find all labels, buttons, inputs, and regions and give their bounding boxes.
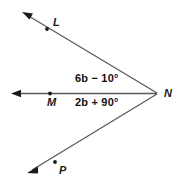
figure-canvas <box>0 0 177 182</box>
ray-LN-arrowhead <box>22 12 33 20</box>
angle-label-upper: 6b − 10° <box>75 73 119 84</box>
angle-label-lower: 2b + 90° <box>75 97 119 108</box>
point-L-dot <box>45 27 49 31</box>
ray-PN-arrowhead <box>27 167 38 174</box>
geometry-figure: L M N P 6b − 10° 2b + 90° <box>0 0 177 182</box>
point-label-M: M <box>47 97 56 108</box>
point-label-P: P <box>59 165 66 176</box>
point-label-L: L <box>53 17 60 28</box>
point-M-dot <box>48 92 52 96</box>
point-label-N: N <box>164 88 172 99</box>
point-P-dot <box>53 160 57 164</box>
ray-MN-arrowhead <box>11 90 21 97</box>
